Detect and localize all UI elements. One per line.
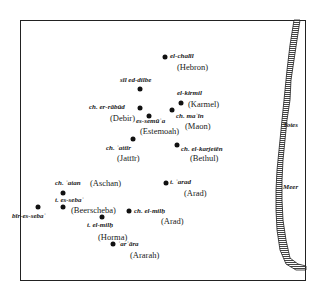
arabic-place-name: ch. el-karjetēn: [181, 146, 223, 153]
arabic-place-name: es-semūʿa: [136, 118, 165, 125]
arabic-place-name: ch. ʿatan: [55, 180, 81, 187]
arabic-place-name: t. es-sebaʿ: [55, 197, 84, 204]
arabic-place-name: ch. maʿīn: [176, 113, 204, 120]
arabic-place-name: ch. er-rābūd: [89, 104, 125, 111]
biblical-place-name: (Ararah): [130, 251, 159, 260]
arabic-place-name: sīl ed-dilbe: [120, 77, 151, 84]
place-dot-icon: [164, 181, 169, 186]
biblical-place-name: (Estemoah): [140, 127, 179, 136]
biblical-place-name: (Beerscheba): [71, 206, 116, 215]
biblical-place-name: (Arad): [161, 217, 184, 226]
place-dot-icon: [138, 106, 143, 111]
arabic-place-name: ch. el-milḥ: [134, 208, 165, 215]
place-dot-icon: [175, 143, 180, 148]
biblical-place-name: (Jattīr): [117, 154, 140, 163]
biblical-place-name: (Hebron): [177, 63, 208, 72]
dead-sea-coastline: [0, 0, 323, 299]
place-dot-icon: [100, 215, 105, 220]
place-dot-icon: [163, 55, 168, 60]
arabic-place-name: el-chalīl: [170, 53, 194, 60]
place-dot-icon: [61, 191, 66, 196]
biblical-place-name: (Arad): [184, 189, 207, 198]
place-dot-icon: [127, 209, 132, 214]
biblical-place-name: (Bethul): [190, 154, 218, 163]
place-dot-icon: [131, 137, 136, 142]
biblical-place-name: (Debir): [110, 114, 135, 123]
place-dot-icon: [61, 205, 66, 210]
place-dot-icon: [111, 242, 116, 247]
place-dot-icon: [36, 205, 41, 210]
sea-label: Totes: [283, 122, 298, 129]
biblical-place-name: (Karmel): [188, 100, 219, 109]
place-dot-icon: [138, 87, 143, 92]
sea-label: Meer: [283, 184, 298, 191]
arabic-place-name: bīr-es-sebaʿ: [12, 213, 46, 220]
arabic-place-name: t. el-milḥ: [87, 222, 113, 229]
biblical-place-name: (Maon): [185, 122, 211, 131]
arabic-place-name: ch. ʿattīr: [106, 145, 131, 152]
arabic-place-name: t. ʿarad: [170, 179, 191, 186]
arabic-place-name: ʿarʿāra: [118, 241, 139, 248]
biblical-place-name: (Aschan): [90, 179, 121, 188]
place-dot-icon: [179, 101, 184, 106]
arabic-place-name: el-kirmil: [177, 90, 202, 97]
place-dot-icon: [170, 108, 175, 113]
